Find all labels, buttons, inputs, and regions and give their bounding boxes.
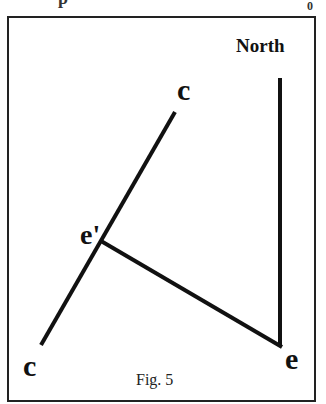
label-c-top: c — [177, 73, 190, 106]
cropped-header-fragment-left: p — [58, 0, 68, 8]
figure-frame — [8, 17, 315, 401]
label-e: e — [285, 342, 298, 375]
line-c-c — [41, 112, 175, 345]
cropped-header-fragment-right: 0 — [307, 0, 313, 13]
line-e-to-e-prime — [101, 241, 282, 347]
label-north: North — [236, 35, 285, 56]
figure-5-diagram: p 0 North c e' c e Fig. 5 — [0, 0, 326, 404]
label-e-prime: e' — [80, 219, 100, 250]
figure-caption: Fig. 5 — [136, 371, 173, 389]
label-c-bottom: c — [23, 349, 36, 382]
